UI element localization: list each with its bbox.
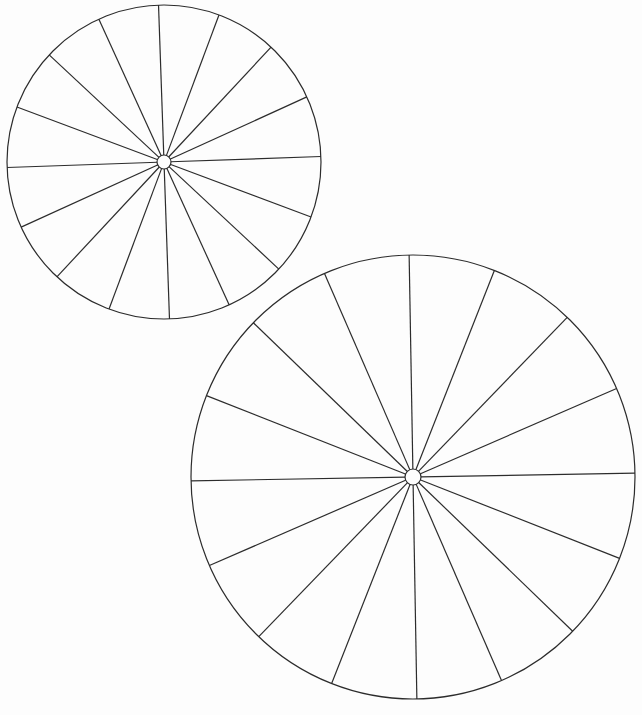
- drawing-canvas: [0, 0, 642, 715]
- wheel-diagram-svg: [0, 0, 642, 715]
- hub-circle: [405, 469, 421, 485]
- hub-circle: [157, 155, 171, 169]
- canvas-background: [0, 0, 642, 715]
